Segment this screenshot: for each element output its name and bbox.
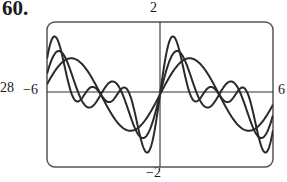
graph-plot bbox=[0, 0, 287, 182]
